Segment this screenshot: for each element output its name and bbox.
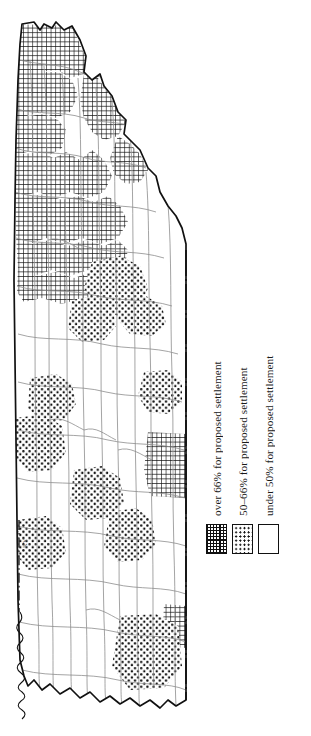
legend-item-50-66: 50–66% for proposed settlement <box>231 286 257 554</box>
dense-crosshatch-swatch <box>206 524 227 554</box>
legend-label-50-66: 50–66% for proposed settlement <box>231 294 255 516</box>
legend-label-under-50: under 50% for proposed settlement <box>257 294 281 516</box>
legend-item-over-66: over 66% for proposed settlement <box>205 286 231 554</box>
blank-white-swatch <box>258 524 279 554</box>
legend-item-under-50: under 50% for proposed settlement <box>257 286 283 554</box>
map-legend: over 66% for proposed settlement 50–66% … <box>203 286 308 554</box>
map-panel: KY <box>0 0 200 736</box>
map-figure: KY over 66% for proposed settlement 50–6… <box>0 0 311 736</box>
sparse-dot-swatch <box>232 524 253 554</box>
legend-label-over-66: over 66% for proposed settlement <box>205 294 229 516</box>
map-svg: KY <box>0 0 200 736</box>
neighbor-state-label: KY <box>21 538 28 548</box>
